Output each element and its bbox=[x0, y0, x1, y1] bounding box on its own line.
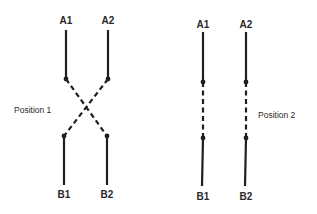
switch-positions-diagram: A1 A2 B1 B2 Position 1 A1 A2 B1 B2 Posit… bbox=[0, 0, 317, 214]
position-1-label: Position 1 bbox=[14, 105, 52, 115]
position-2-terminal-b1: B1 bbox=[197, 191, 210, 202]
position-1-terminal-a1: A1 bbox=[60, 15, 73, 26]
position-2-contact-a1-icon bbox=[201, 80, 206, 85]
position-2-terminal-b2: B2 bbox=[240, 191, 253, 202]
position-1-terminal-b2: B2 bbox=[101, 189, 114, 200]
position-2-group: A1 A2 B1 B2 Position 2 bbox=[197, 19, 296, 202]
position-2-contact-b2-icon bbox=[244, 136, 249, 141]
position-2-label: Position 2 bbox=[258, 110, 296, 120]
position-2-contact-b1-icon bbox=[201, 136, 206, 141]
position-2-terminal-a2: A2 bbox=[240, 19, 253, 30]
position-1-terminal-a2: A2 bbox=[102, 15, 115, 26]
position-1-group: A1 A2 B1 B2 Position 1 bbox=[14, 15, 115, 200]
position-1-contact-a1-icon bbox=[64, 77, 69, 82]
position-2-contact-a2-icon bbox=[244, 80, 249, 85]
position-1-contact-b1-icon bbox=[62, 134, 67, 139]
position-1-contact-b2-icon bbox=[105, 134, 110, 139]
position-1-contact-a2-icon bbox=[106, 77, 111, 82]
position-2-wire-b2 bbox=[245, 138, 246, 186]
position-2-wire-b1 bbox=[202, 138, 203, 186]
position-2-terminal-a1: A1 bbox=[197, 19, 210, 30]
position-1-terminal-b1: B1 bbox=[58, 189, 71, 200]
